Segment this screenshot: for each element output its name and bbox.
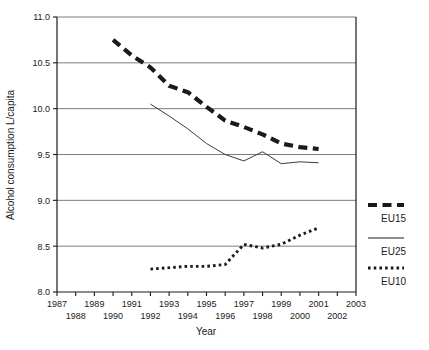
x-tick-label-1997: 1997 <box>234 299 254 309</box>
y-axis-tick-labels: 8.08.59.09.510.010.511.0 <box>32 12 50 297</box>
x-tick-label-1999: 1999 <box>271 299 291 309</box>
series-line-eu10 <box>150 228 318 269</box>
x-tick-label-2000: 2000 <box>290 311 310 321</box>
chart-legend: EU15EU25EU10 <box>368 205 406 287</box>
x-tick-label-1993: 1993 <box>159 299 179 309</box>
legend-label-eu25: EU25 <box>381 246 406 257</box>
x-tick-label-1989: 1989 <box>84 299 104 309</box>
legend-label-eu10: EU10 <box>381 276 406 287</box>
horizontal-gridlines <box>57 17 356 246</box>
y-tick-label-11: 11.0 <box>33 12 50 22</box>
x-tick-label-1994: 1994 <box>178 311 198 321</box>
x-tick-label-1987: 1987 <box>47 299 67 309</box>
x-tick-label-2002: 2002 <box>327 311 347 321</box>
y-tick-label-9: 9.0 <box>37 196 50 206</box>
x-tick-label-2001: 2001 <box>309 299 329 309</box>
x-axis-tick-labels: 1987198819891990199119921993199419951996… <box>47 299 366 321</box>
series-line-eu15 <box>113 40 319 149</box>
y-tick-label-10.5: 10.5 <box>32 58 50 68</box>
y-tick-label-9.5: 9.5 <box>37 150 50 160</box>
x-tick-label-1988: 1988 <box>66 311 86 321</box>
legend-label-eu15: EU15 <box>381 213 406 224</box>
x-tick-label-1990: 1990 <box>103 311 123 321</box>
x-tick-label-1996: 1996 <box>215 311 235 321</box>
y-tick-label-10: 10.0 <box>32 104 50 114</box>
y-axis-title: Alcohol consumption L/capita <box>5 90 16 221</box>
figure-caption <box>6 336 426 350</box>
x-tick-label-1998: 1998 <box>253 311 273 321</box>
x-tick-label-1992: 1992 <box>140 311 160 321</box>
y-tick-label-8: 8.0 <box>37 287 50 297</box>
figure-container: 8.08.59.09.510.010.511.0 198719881989199… <box>0 0 429 350</box>
y-tick-label-8.5: 8.5 <box>37 242 50 252</box>
x-tick-label-1991: 1991 <box>122 299 142 309</box>
x-tick-label-1995: 1995 <box>196 299 216 309</box>
x-tick-label-2003: 2003 <box>346 299 366 309</box>
alcohol-consumption-line-chart: 8.08.59.09.510.010.511.0 198719881989199… <box>0 0 429 350</box>
